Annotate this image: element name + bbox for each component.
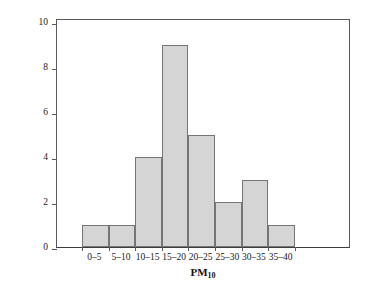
x-axis-label-subscript: 10 [208, 271, 216, 280]
bar-20–25 [188, 135, 215, 247]
y-tick-mark [52, 24, 57, 25]
bar-10–15 [135, 157, 162, 247]
bar-0–5 [82, 225, 109, 247]
bar-5–10 [109, 225, 136, 247]
x-axis-label-base: PM [190, 266, 207, 278]
x-tick-mark [162, 247, 163, 251]
x-tick-mark [82, 247, 83, 251]
x-tick-mark [242, 247, 243, 251]
y-tick-mark [52, 114, 57, 115]
y-tick-mark [52, 69, 57, 70]
bar-25–30 [215, 202, 242, 247]
bar-15–20 [162, 45, 189, 247]
y-tick-label: 10 [39, 17, 49, 27]
x-tick-mark [295, 247, 296, 251]
y-tick-mark [52, 159, 57, 160]
x-tick-mark [109, 247, 110, 251]
y-tick-label: 2 [43, 197, 48, 207]
bar-30–35 [242, 180, 269, 247]
y-tick-mark [52, 204, 57, 205]
y-tick-label: 8 [43, 62, 48, 72]
x-tick-mark [268, 247, 269, 251]
x-axis-label: PM10 [56, 266, 350, 280]
x-tick-label-35–40: 35–40 [261, 252, 301, 262]
bar-35–40 [268, 225, 295, 247]
y-tick-label: 4 [43, 152, 48, 162]
x-tick-mark [215, 247, 216, 251]
histogram-figure: Frequency 0246810 0–55–1010–1515–2020–25… [0, 0, 367, 291]
x-tick-mark [135, 247, 136, 251]
y-tick-mark [52, 249, 57, 250]
y-tick-label: 6 [43, 107, 48, 117]
y-tick-label: 0 [43, 242, 48, 252]
x-tick-mark [188, 247, 189, 251]
plot-area: 0246810 [56, 19, 350, 248]
